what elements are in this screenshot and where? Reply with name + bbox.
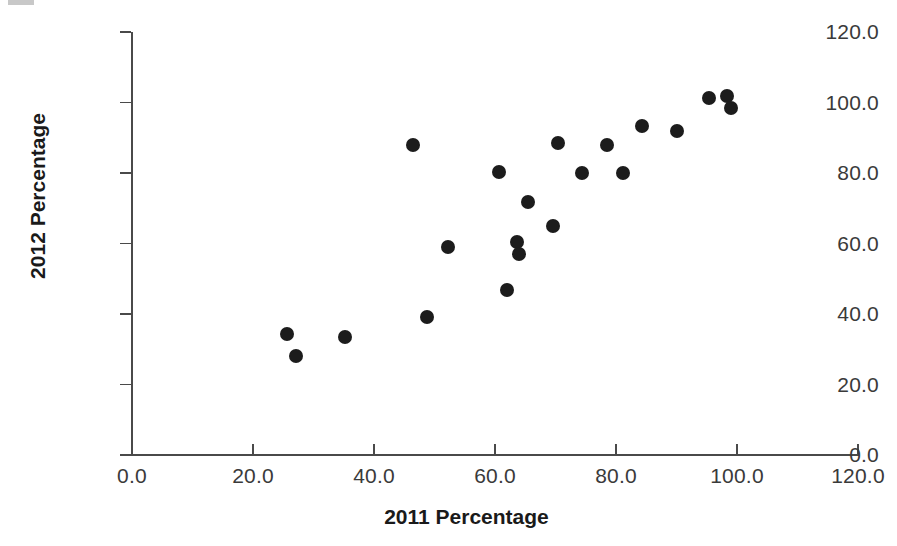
y-tick-120.0: [120, 31, 131, 33]
data-point: [280, 327, 294, 341]
x-tick-label: 40.0: [353, 464, 395, 488]
data-point: [338, 330, 352, 344]
plot-area: [132, 32, 858, 455]
data-point: [492, 165, 506, 179]
data-point: [575, 166, 589, 180]
data-point: [406, 138, 420, 152]
x-tick-label: 20.0: [232, 464, 274, 488]
y-tick-100.0: [120, 102, 131, 104]
data-point: [500, 283, 514, 297]
y-axis-title: 2012 Percentage: [26, 46, 50, 346]
scan-artifact: [8, 0, 34, 5]
data-point: [551, 136, 565, 150]
data-point: [546, 219, 560, 233]
data-point: [702, 91, 716, 105]
x-tick-label: 120.0: [831, 464, 885, 488]
data-point: [724, 101, 738, 115]
x-tick-label: 0.0: [117, 464, 147, 488]
y-tick-60.0: [120, 243, 131, 245]
x-axis-title: 2011 Percentage: [0, 505, 897, 529]
data-point: [289, 349, 303, 363]
y-tick-20.0: [120, 384, 131, 386]
data-point: [600, 138, 614, 152]
x-tick-label: 60.0: [474, 464, 516, 488]
y-tick-0.0: [120, 454, 131, 456]
data-point: [635, 119, 649, 133]
x-tick-label: 80.0: [595, 464, 637, 488]
y-tick-80.0: [120, 172, 131, 174]
y-tick-40.0: [120, 313, 131, 315]
scatter-chart: 0.020.040.060.080.0100.0120.0 0.020.040.…: [0, 0, 897, 546]
data-point: [420, 310, 434, 324]
x-tick-label: 100.0: [710, 464, 764, 488]
